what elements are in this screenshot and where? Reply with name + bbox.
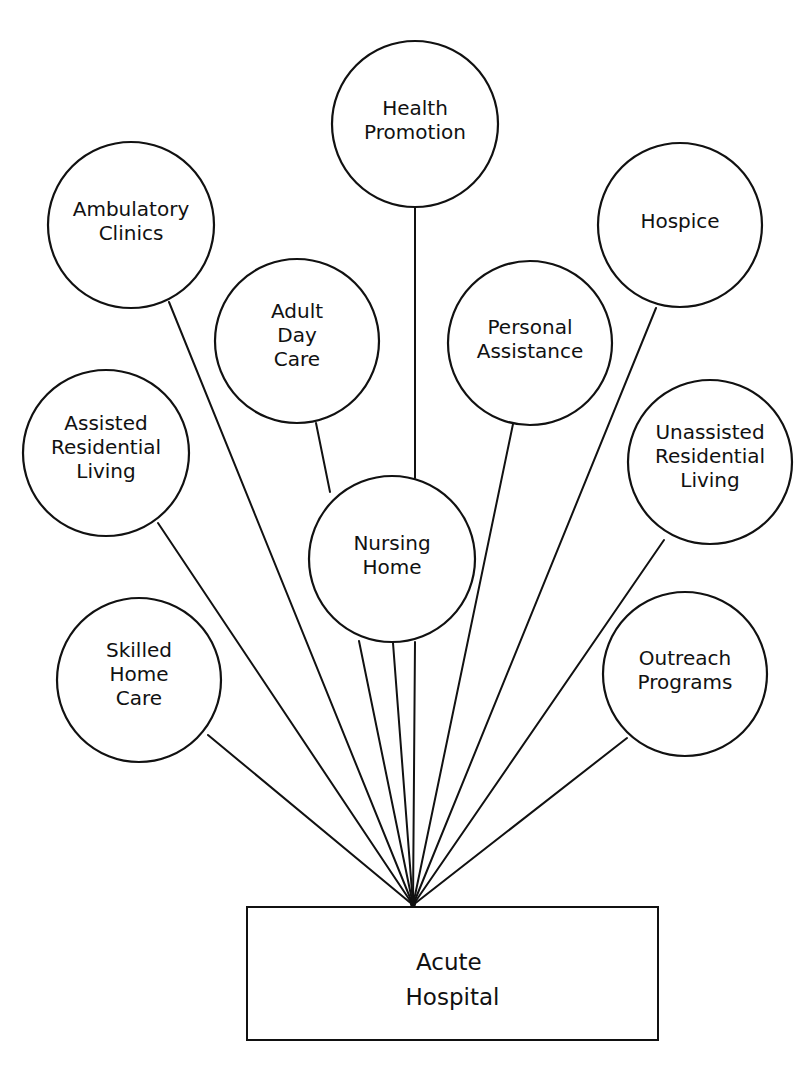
node-label: SkilledHomeCare	[106, 638, 172, 710]
node-label-line: Unassisted	[655, 420, 764, 444]
node-label-line: Care	[274, 347, 320, 371]
node-label: Hospice	[640, 209, 719, 233]
node-label-line: Care	[116, 686, 162, 710]
node-label-line: Residential	[655, 444, 765, 468]
node-label-line: Assisted	[64, 411, 147, 435]
node-label-line: Home	[362, 555, 421, 579]
connector-outreach-programs	[413, 738, 627, 905]
hub-label-line-1: Acute	[416, 949, 482, 975]
service-nodes: HealthPromotionAmbulatoryClinicsHospiceA…	[23, 41, 792, 762]
care-continuum-diagram: HealthPromotionAmbulatoryClinicsHospiceA…	[0, 0, 808, 1066]
node-hospice: Hospice	[598, 143, 762, 307]
connector-health-promotion-2	[413, 642, 415, 905]
node-label: OutreachPrograms	[638, 646, 733, 694]
node-ambulatory-clinics: AmbulatoryClinics	[48, 142, 214, 308]
node-label-line: Living	[680, 468, 739, 492]
node-nursing-home: NursingHome	[309, 476, 475, 642]
acute-hospital-box: Acute Hospital	[247, 907, 658, 1040]
node-label-line: Residential	[51, 435, 161, 459]
node-label-line: Health	[382, 96, 448, 120]
hub-label-line-2: Hospital	[406, 984, 500, 1010]
node-label-line: Personal	[487, 315, 572, 339]
node-label: NursingHome	[353, 531, 430, 579]
connector-nursing-home-2	[393, 643, 413, 905]
node-skilled-home-care: SkilledHomeCare	[57, 598, 221, 762]
node-personal-assistance: PersonalAssistance	[448, 261, 612, 425]
node-label-line: Day	[277, 323, 317, 347]
node-label-line: Ambulatory	[73, 197, 190, 221]
node-adult-day-care: AdultDayCare	[215, 259, 379, 423]
node-label: PersonalAssistance	[477, 315, 584, 363]
node-label-line: Skilled	[106, 638, 172, 662]
node-unassisted-residential-living: UnassistedResidentialLiving	[628, 380, 792, 544]
node-label-line: Living	[76, 459, 135, 483]
node-label-line: Programs	[638, 670, 733, 694]
node-label-line: Outreach	[639, 646, 731, 670]
node-label-line: Promotion	[364, 120, 466, 144]
connector-adult-day-care	[316, 423, 330, 492]
node-label-line: Clinics	[99, 221, 164, 245]
node-label: AdultDayCare	[271, 299, 323, 371]
node-health-promotion: HealthPromotion	[332, 41, 498, 207]
node-label-line: Adult	[271, 299, 323, 323]
node-label-line: Hospice	[640, 209, 719, 233]
node-label-line: Nursing	[353, 531, 430, 555]
connector-skilled-home-care	[208, 735, 413, 905]
node-assisted-residential-living: AssistedResidentialLiving	[23, 370, 189, 536]
node-outreach-programs: OutreachPrograms	[603, 592, 767, 756]
node-label-line: Assistance	[477, 339, 584, 363]
node-label-line: Home	[109, 662, 168, 686]
